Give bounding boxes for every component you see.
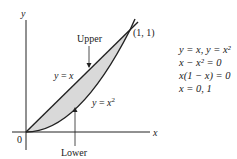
y-axis-label: y xyxy=(21,8,25,19)
equation-block: y = x, y = x² x − x² = 0 x(1 − x) = 0 x … xyxy=(179,43,231,95)
upper-arrowhead xyxy=(87,63,92,68)
equation-line-3: x(1 − x) = 0 xyxy=(179,69,231,82)
parabola-equation-label: y = x2 xyxy=(92,95,115,108)
equation-line-2: x − x² = 0 xyxy=(179,56,231,69)
line-equation-label: y = x xyxy=(54,70,74,81)
equation-line-1: y = x, y = x² xyxy=(179,43,231,56)
equation-line-4: x = 0, 1 xyxy=(179,82,231,95)
upper-label: Upper xyxy=(77,33,102,44)
origin-label: 0 xyxy=(17,134,22,145)
x-axis-label: x xyxy=(153,127,157,138)
intersection-label: (1, 1) xyxy=(133,27,155,38)
lower-label: Lower xyxy=(61,147,87,158)
